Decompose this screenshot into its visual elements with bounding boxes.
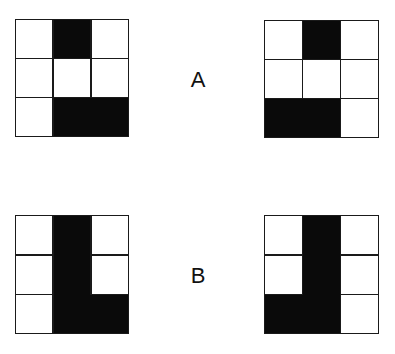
grid-cell xyxy=(54,20,90,58)
grid-cell xyxy=(92,20,128,58)
grid-cell xyxy=(303,99,340,137)
grid-b-left xyxy=(15,215,129,334)
grid-cell xyxy=(265,99,302,137)
grid-cell xyxy=(341,21,378,59)
grid-cell xyxy=(16,216,52,254)
grid-cell xyxy=(54,59,90,97)
grid-a-left xyxy=(15,19,129,137)
grid-cell xyxy=(265,60,302,98)
grid-cell xyxy=(54,295,90,333)
grid-cell xyxy=(16,295,52,333)
grid-cell xyxy=(341,216,378,254)
grid-cell xyxy=(92,98,128,136)
grid-cell xyxy=(16,256,52,294)
grid-cell xyxy=(341,295,378,333)
grid-a-right xyxy=(264,20,379,138)
grid-cell xyxy=(54,98,90,136)
grid-cell xyxy=(92,256,128,294)
grid-cell xyxy=(303,295,340,333)
grid-cell xyxy=(92,295,128,333)
grid-cell xyxy=(92,216,128,254)
grid-cell xyxy=(303,256,340,294)
grid-cell xyxy=(265,295,302,333)
grid-cell xyxy=(16,98,52,136)
grid-cell xyxy=(265,21,302,59)
grid-cell xyxy=(265,256,302,294)
grid-cell xyxy=(341,99,378,137)
grid-cell xyxy=(16,59,52,97)
grid-cell xyxy=(303,216,340,254)
label-b: B xyxy=(183,265,213,287)
grid-cell xyxy=(341,256,378,294)
grid-cell xyxy=(265,216,302,254)
grid-cell xyxy=(303,21,340,59)
grid-cell xyxy=(54,256,90,294)
grid-b-right xyxy=(264,215,379,334)
label-a: A xyxy=(183,69,213,91)
grid-cell xyxy=(92,59,128,97)
grid-cell xyxy=(54,216,90,254)
grid-cell xyxy=(16,20,52,58)
grid-cell xyxy=(341,60,378,98)
grid-cell xyxy=(303,60,340,98)
